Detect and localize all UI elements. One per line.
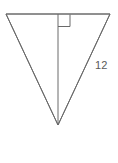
geometry-figure: 12	[0, 0, 118, 163]
triangle-diagram-svg: 12	[0, 0, 118, 163]
triangle-left-side	[6, 14, 58, 125]
side-length-label: 12	[95, 59, 108, 71]
right-angle-marker-icon	[58, 15, 70, 27]
